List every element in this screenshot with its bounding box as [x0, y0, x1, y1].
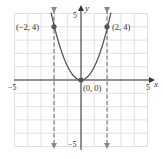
parabola-chart: x y −5 5 5 −5 (−2, 4) (0, 0) (2, 4)	[0, 0, 163, 159]
y-max-tick-label: 5	[73, 11, 77, 20]
point-origin	[78, 77, 83, 82]
point-right-label: (2, 4)	[112, 22, 131, 32]
y-min-tick-label: −5	[68, 140, 77, 149]
x-min-tick-label: −5	[8, 83, 17, 92]
x-axis-label: x	[153, 79, 158, 89]
point-left-label: (−2, 4)	[16, 22, 39, 32]
point-left	[51, 24, 56, 29]
y-axis-label: y	[84, 3, 89, 13]
x-max-tick-label: 5	[146, 83, 150, 92]
point-origin-label: (0, 0)	[83, 83, 102, 93]
point-right	[104, 24, 109, 29]
